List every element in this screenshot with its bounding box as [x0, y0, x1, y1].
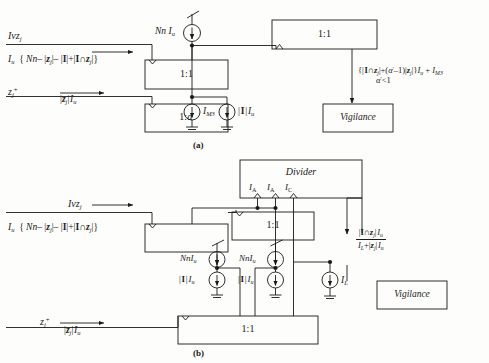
panel-a-source-i-iu-label: | I | Iu — [238, 107, 254, 118]
panel-b-input-top-expression: Iu { Nn– |zj|– |I|+|I∩zj|} — [8, 223, 98, 234]
panel-a-source-im3-label: IM3 — [203, 107, 215, 118]
panel-b-caption: (b) — [193, 349, 204, 358]
panel-b-vigilance-expression: |I∩zj| Iu IL+|zj| Iu — [356, 228, 386, 250]
panel-a-input-bottom-expression: |zj| Iu — [60, 95, 77, 106]
panel-b-divider-terminal-ia-1-label: IA — [249, 183, 256, 193]
panel-a-vigilance-label: Vigilance — [323, 112, 393, 122]
panel-b-input-bottom-label: zj+ — [40, 316, 50, 328]
panel-b-mirror-1to1-bottom-label: 1:1 — [178, 323, 318, 334]
panel-a-source-nn-iu-label: Nn Iu — [155, 27, 175, 38]
panel-b-input-top-label: Ivzj — [68, 199, 82, 210]
panel-b-divider-terminal-ia-2-label: IA — [267, 183, 274, 193]
panel-b-divider-terminal-ic-label: IC — [285, 183, 292, 193]
panel-b-source-i-iu-right-label: | I | Iu — [238, 275, 253, 285]
panel-b-source-i-iu-left-label: | I | Iu — [179, 275, 194, 285]
panel-a-vigilance-expression: {| I∩zj|+(α'–1)|zj|}Iu + IM3 α'<1 — [358, 66, 443, 85]
panel-b-vigilance-label: Vigilance — [377, 289, 447, 299]
panel-a-mirror-1to1-top-right-label: 1:1 — [272, 28, 377, 39]
panel-b-input-bottom-expression: |zj| Iu — [64, 326, 81, 337]
panel-a-input-bottom-label: zj+ — [8, 86, 18, 98]
panel-a-input-top-expression: Iu { Nn– |zj|– |I|+|I∩zj|} — [8, 55, 98, 66]
panel-b-source-nn-iu-right-label: NnIu — [239, 254, 256, 264]
panel-a-mirror-1to1-upper-label: 1:1 — [145, 68, 228, 79]
figure-current-mode-art-circuit: Ivzj Iu { Nn– |zj|– |I|+|I∩zj|} 1:1 zj+ … — [0, 0, 489, 363]
panel-b-source-il-label: IL — [341, 276, 348, 287]
panel-b-divider-label: Divider — [240, 166, 362, 177]
panel-b-source-nn-iu-left-label: NnIu — [180, 254, 197, 264]
panel-b-mirror-1to1-middle-label: 1:1 — [232, 219, 314, 230]
panel-a-input-top-label: Ivzj — [8, 31, 22, 42]
panel-a-mirror-1toalpha-label: 1:α' — [145, 111, 228, 122]
panel-a-caption: (a) — [193, 141, 204, 150]
